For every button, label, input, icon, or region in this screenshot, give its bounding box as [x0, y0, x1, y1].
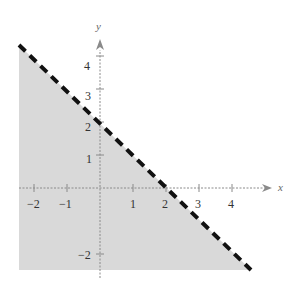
y-tick-label: 1: [86, 152, 92, 166]
inequality-graph: −2 −1 1 2 3 4 4 3 2 1 −2 x y: [0, 0, 284, 283]
x-axis-label: x: [277, 181, 283, 193]
x-axis-arrow-icon: [262, 184, 272, 192]
x-tick-label: 4: [228, 197, 234, 211]
x-tick-label: 2: [162, 197, 168, 211]
y-tick-label: 2: [85, 120, 91, 134]
x-tick-label: 3: [195, 197, 201, 211]
y-tick-label: −2: [78, 248, 91, 262]
y-tick-label: 3: [85, 89, 91, 103]
y-axis-label: y: [95, 20, 101, 32]
x-tick-label: −2: [27, 197, 40, 211]
x-tick-label: −1: [59, 197, 72, 211]
y-tick-label: 4: [84, 59, 90, 73]
y-axis-arrow-icon: [96, 39, 104, 50]
x-tick-label: 1: [130, 197, 136, 211]
